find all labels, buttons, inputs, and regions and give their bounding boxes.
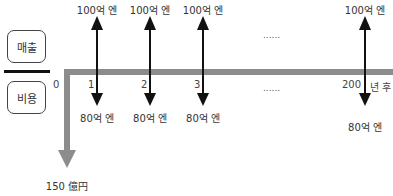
initial-investment-label: 150 億円 — [46, 178, 88, 193]
revenue-amount-2: 100억 엔 — [130, 2, 170, 17]
period-label-3: 3 — [194, 79, 200, 90]
revenue-amount-200: 100억 엔 — [345, 2, 385, 17]
cost-amount-1: 80억 엔 — [80, 110, 114, 125]
ellipsis-bottom: ...... — [263, 83, 280, 93]
revenue-amount-3: 100억 엔 — [183, 2, 223, 17]
unit-label: 년 후 — [370, 79, 391, 94]
origin-label: 0 — [53, 79, 59, 90]
investment-arrow-head — [58, 150, 76, 168]
period-label-2: 2 — [141, 79, 147, 90]
cost-amount-2: 80억 엔 — [133, 110, 167, 125]
period-label-1: 1 — [88, 79, 94, 90]
cash-flow-arrows — [91, 16, 371, 106]
cash-flow-diagram — [0, 0, 393, 196]
ellipsis-top: ...... — [263, 30, 280, 40]
revenue-amount-1: 100억 엔 — [77, 2, 117, 17]
cost-amount-200: 80억 엔 — [348, 119, 382, 134]
period-label-200: 200 — [342, 79, 361, 90]
cost-amount-3: 80억 엔 — [186, 110, 220, 125]
